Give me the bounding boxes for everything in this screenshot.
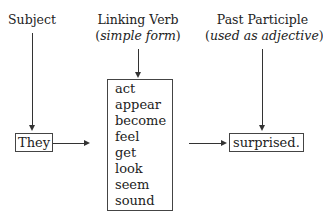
verb-item: get bbox=[115, 145, 136, 160]
verb-item: look bbox=[115, 161, 143, 176]
past-participle-heading: Past Participle bbox=[205, 13, 320, 27]
verb-to-participle-arrowhead-icon bbox=[221, 140, 227, 146]
verb-to-participle-arrow bbox=[189, 143, 222, 144]
verb-item: act bbox=[115, 81, 135, 96]
subject-heading: Subject bbox=[6, 13, 58, 27]
verb-item: feel bbox=[115, 129, 139, 144]
verb-item: seem bbox=[115, 177, 149, 192]
verb-item: become bbox=[115, 113, 166, 128]
past-participle-subtitle: used as adjective bbox=[210, 28, 319, 43]
subject-to-verb-arrowhead-icon bbox=[84, 140, 90, 146]
linking-verb-subtitle: simple form bbox=[100, 28, 176, 43]
verb-connector bbox=[138, 49, 139, 73]
verb-arrowhead-icon bbox=[135, 72, 141, 78]
past-participle-subheading: (used as adjective) bbox=[205, 29, 320, 43]
participle-box: surprised. bbox=[229, 133, 304, 152]
linking-verb-list: act appear become feel get look seem sou… bbox=[107, 79, 173, 211]
participle-connector bbox=[262, 49, 263, 125]
verb-item: appear bbox=[115, 97, 161, 112]
linking-verb-heading: Linking Verb bbox=[88, 13, 188, 27]
verb-item: sound bbox=[115, 193, 155, 208]
subject-connector bbox=[32, 33, 33, 125]
subject-box: They bbox=[15, 133, 53, 152]
subject-to-verb-arrow bbox=[53, 143, 84, 144]
participle-arrowhead-icon bbox=[259, 125, 265, 131]
linking-verb-subheading: (simple form) bbox=[88, 29, 188, 43]
subject-arrowhead-icon bbox=[29, 125, 35, 131]
